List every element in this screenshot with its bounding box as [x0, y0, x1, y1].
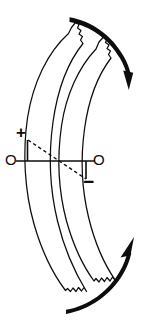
curved-band-diagram: O O + −: [0, 0, 144, 326]
inner-band-outline: [59, 37, 116, 282]
axis-label-o-right: O: [93, 152, 105, 167]
bottom-arrow-head: [121, 237, 135, 258]
negative-sign-label: −: [83, 172, 94, 191]
diagram-canvas: [0, 0, 144, 326]
positive-sign-label: +: [16, 124, 26, 141]
top-arrow-head: [123, 71, 133, 91]
inner-curved-band: [59, 37, 116, 282]
axis-label-o-left: O: [5, 152, 17, 167]
